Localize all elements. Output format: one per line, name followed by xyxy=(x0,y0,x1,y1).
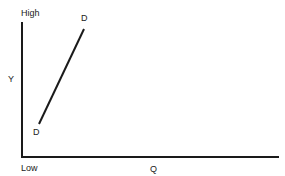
x-axis-label: Q xyxy=(150,164,157,174)
curve-top-label: D xyxy=(81,13,88,23)
chart-canvas xyxy=(0,0,285,176)
y-axis-label: Y xyxy=(8,74,14,84)
curve-bottom-label: D xyxy=(33,127,40,137)
origin-low-label: Low xyxy=(21,163,38,173)
y-axis-high-label: High xyxy=(21,8,40,18)
demand-curve xyxy=(39,29,84,124)
